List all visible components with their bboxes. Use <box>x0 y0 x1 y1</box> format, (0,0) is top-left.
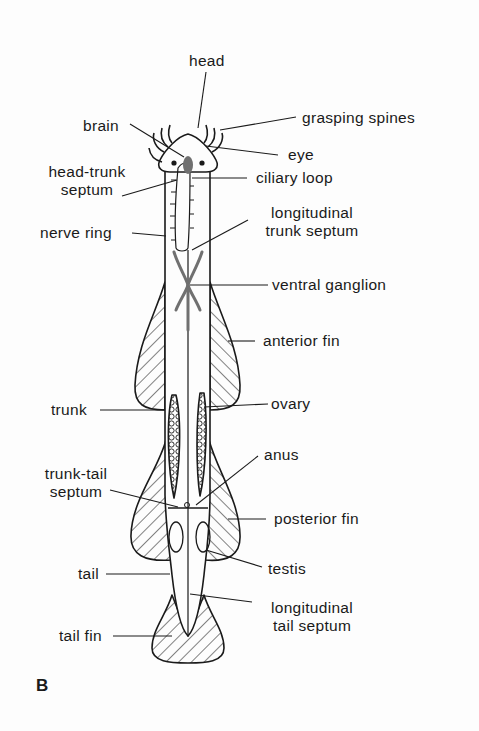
label-trunk: trunk <box>51 401 87 419</box>
label-anterior-fin: anterior fin <box>263 332 340 350</box>
label-testis: testis <box>268 560 306 578</box>
label-trunk-tail-septum: trunk-tail septum <box>36 465 116 501</box>
label-tail-fin: tail fin <box>59 627 102 645</box>
label-ciliary-loop: ciliary loop <box>256 169 333 187</box>
anterior-fin-left <box>135 282 165 410</box>
label-ventral-ganglion: ventral ganglion <box>272 276 386 294</box>
label-anus: anus <box>264 446 299 464</box>
label-nerve-ring: nerve ring <box>40 224 112 242</box>
label-grasping-spines: grasping spines <box>302 109 415 127</box>
label-longitudinal-tail-septum: longitudinal tail septum <box>258 599 366 635</box>
label-posterior-fin: posterior fin <box>274 510 359 528</box>
panel-label: B <box>36 676 48 696</box>
label-tail: tail <box>78 565 99 583</box>
label-eye: eye <box>288 146 314 164</box>
label-longitudinal-trunk-septum: longitudinal trunk septum <box>252 204 372 240</box>
label-ovary: ovary <box>271 395 310 413</box>
diagram-canvas: head brain grasping spines eye head-trun… <box>0 0 479 731</box>
anterior-fin-right <box>210 282 240 410</box>
label-head-trunk-septum: head-trunk septum <box>40 163 134 199</box>
label-head: head <box>189 52 225 70</box>
label-brain: brain <box>83 117 119 135</box>
